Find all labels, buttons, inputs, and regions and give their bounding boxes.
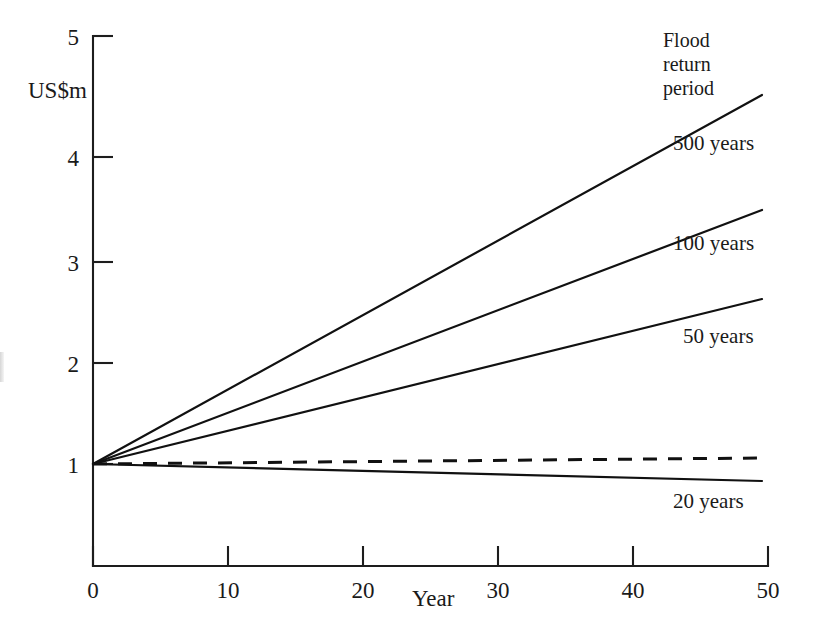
x-tick-label-50: 50 bbox=[757, 578, 780, 603]
y-tick-label-4: 4 bbox=[68, 146, 80, 171]
chart-figure: 5 4 3 2 1 0 10 20 30 40 50 US$m Year Flo… bbox=[0, 0, 814, 638]
legend-title-line-3: period bbox=[663, 77, 714, 100]
y-tick-label-5: 5 bbox=[68, 25, 80, 50]
x-axis-title: Year bbox=[412, 586, 455, 611]
x-tick-label-30: 30 bbox=[487, 578, 510, 603]
series-label-50-years: 50 years bbox=[683, 324, 754, 348]
y-tick-label-3: 3 bbox=[68, 251, 80, 276]
series-label-500-years: 500 years bbox=[673, 131, 754, 155]
y-axis-title: US$m bbox=[28, 78, 87, 103]
legend-title-line-1: Flood bbox=[663, 29, 710, 51]
y-axis-ticks bbox=[93, 36, 113, 464]
series-line-dashed-baseline bbox=[93, 458, 762, 464]
series-line-100-years bbox=[93, 210, 762, 464]
series-line-50-years bbox=[93, 299, 762, 464]
y-tick-label-1: 1 bbox=[68, 453, 80, 478]
x-axis-ticks bbox=[93, 546, 768, 566]
line-chart: 5 4 3 2 1 0 10 20 30 40 50 US$m Year Flo… bbox=[0, 0, 814, 638]
legend-title-line-2: return bbox=[663, 53, 711, 75]
x-tick-label-0: 0 bbox=[87, 578, 99, 603]
x-tick-label-40: 40 bbox=[622, 578, 645, 603]
x-tick-label-10: 10 bbox=[217, 578, 240, 603]
x-tick-label-20: 20 bbox=[352, 578, 375, 603]
series-line-500-years bbox=[93, 95, 762, 464]
series-label-20-years: 20 years bbox=[673, 489, 744, 513]
legend-title: Flood return period bbox=[663, 29, 714, 100]
series-label-100-years: 100 years bbox=[673, 231, 754, 255]
series-line-20-years bbox=[93, 464, 762, 481]
y-tick-label-2: 2 bbox=[68, 352, 80, 377]
